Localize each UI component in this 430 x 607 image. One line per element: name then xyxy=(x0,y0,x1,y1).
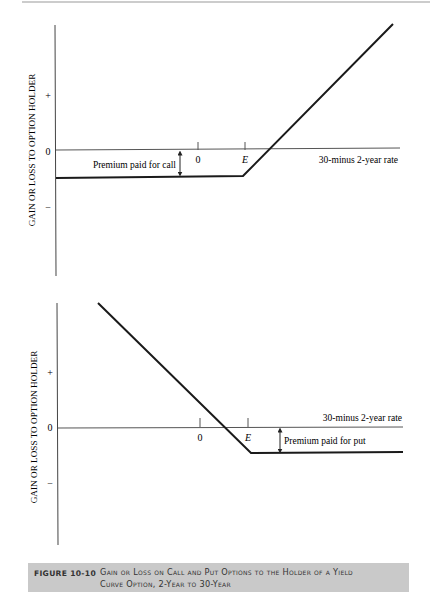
figure-canvas: 0 + − 0 E 30-minus 2-year rate Premium p… xyxy=(0,0,430,607)
y-plus-label: + xyxy=(47,367,53,378)
y-zero-label: 0 xyxy=(46,146,51,157)
y-zero-label: 0 xyxy=(48,422,53,433)
y-plus-label: + xyxy=(45,90,51,101)
caption-line-1: Gain or Loss on Call and Put Options to … xyxy=(100,567,353,577)
y-minus-label: − xyxy=(45,202,51,213)
x-axis xyxy=(58,427,403,428)
premium-annotation: Premium paid for put xyxy=(284,436,366,446)
y-minus-label: − xyxy=(47,478,53,489)
put-chart: 0 + − 0 E 30-minus 2-year rate Premium p… xyxy=(29,303,403,545)
y-axis-label: GAIN OR LOSS TO OPTION HOLDER xyxy=(27,73,37,226)
y-axis xyxy=(55,25,56,276)
x-tick-e-label: E xyxy=(244,432,251,443)
call-chart: 0 + − 0 E 30-minus 2-year rate Premium p… xyxy=(27,24,400,276)
x-tick-e-label: E xyxy=(241,154,248,165)
x-tick-zero-label: 0 xyxy=(196,154,201,165)
figure-number: FIGURE 10-10 xyxy=(34,569,96,578)
caption-line-2: Curve Option, 2-Year to 30-Year xyxy=(100,579,231,589)
y-axis-label: GAIN OR LOSS TO OPTION HOLDER xyxy=(29,350,39,503)
y-axis xyxy=(57,303,58,545)
premium-annotation: Premium paid for call xyxy=(93,160,176,170)
x-tick-zero-label: 0 xyxy=(198,432,203,443)
x-axis xyxy=(56,148,400,150)
figure-caption: FIGURE 10-10 Gain or Loss on Call and Pu… xyxy=(28,563,409,592)
x-axis-label: 30-minus 2-year rate xyxy=(319,155,398,165)
put-payoff-line xyxy=(98,303,403,453)
x-axis-label: 30-minus 2-year rate xyxy=(323,413,402,423)
